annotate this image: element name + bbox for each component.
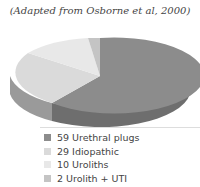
legend-item: 10 Uroliths <box>44 158 139 172</box>
pie-chart <box>0 0 200 130</box>
legend-item: 2 Urolith + UTI <box>44 172 139 186</box>
legend-item: 29 Idiopathic <box>44 145 139 159</box>
legend-label: 59 Urethral plugs <box>57 132 139 143</box>
legend: 59 Urethral plugs 29 Idiopathic 10 Uroli… <box>44 131 139 185</box>
legend-label: 10 Uroliths <box>57 159 109 170</box>
legend-label: 2 Urolith + UTI <box>57 173 127 184</box>
legend-swatch <box>44 175 51 182</box>
legend-swatch <box>44 161 51 168</box>
legend-swatch <box>44 134 51 141</box>
legend-divider <box>40 127 200 128</box>
legend-swatch <box>44 148 51 155</box>
legend-item: 59 Urethral plugs <box>44 131 139 145</box>
legend-label: 29 Idiopathic <box>57 146 119 157</box>
